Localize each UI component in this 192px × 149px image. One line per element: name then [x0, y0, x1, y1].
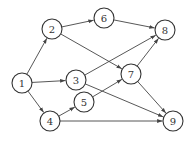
- edge-2-to-6: [62, 20, 94, 27]
- node-label: 3: [73, 75, 79, 86]
- edge-7-to-8: [137, 38, 158, 66]
- edge-7-to-9: [138, 81, 166, 113]
- node-3: 3: [66, 70, 86, 90]
- node-5: 5: [74, 92, 94, 112]
- edge-1-to-3: [32, 81, 66, 83]
- edge-5-to-7: [93, 79, 122, 97]
- node-label: 2: [49, 24, 55, 35]
- node-6: 6: [94, 8, 114, 28]
- node-2: 2: [42, 19, 62, 39]
- node-9: 9: [163, 111, 183, 131]
- edge-4-to-5: [59, 107, 75, 116]
- edge-6-to-8: [114, 20, 155, 28]
- node-label: 7: [128, 69, 134, 80]
- node-4: 4: [40, 111, 60, 131]
- node-label: 8: [162, 25, 168, 36]
- node-label: 9: [170, 116, 176, 127]
- edge-2-to-7: [61, 34, 122, 69]
- edge-1-to-2: [27, 38, 47, 74]
- edge-1-to-4: [28, 91, 44, 112]
- node-label: 1: [19, 78, 25, 89]
- node-8: 8: [155, 20, 175, 40]
- node-1: 1: [12, 73, 32, 93]
- nodes-layer: 123456789: [12, 8, 183, 131]
- node-label: 5: [81, 97, 87, 108]
- node-7: 7: [121, 64, 141, 84]
- node-label: 6: [101, 13, 107, 24]
- node-label: 4: [47, 116, 53, 127]
- directed-graph: 123456789: [0, 0, 192, 149]
- edge-3-to-9: [85, 84, 163, 117]
